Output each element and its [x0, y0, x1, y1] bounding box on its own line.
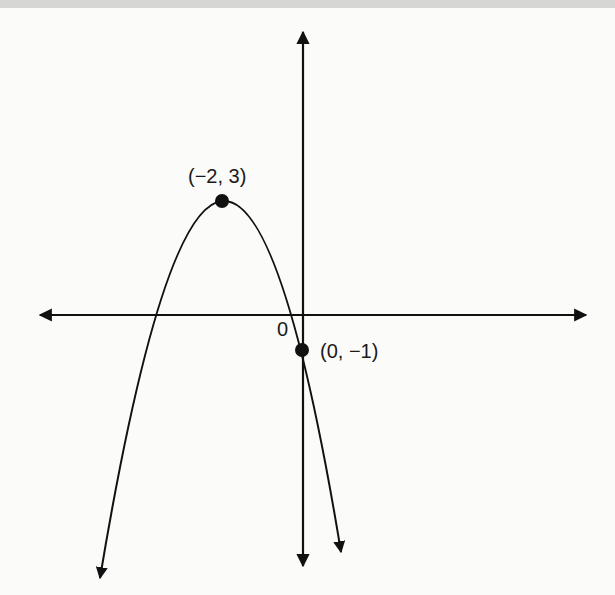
- parabola-graph: [0, 0, 615, 595]
- y-intercept-point: [295, 343, 309, 357]
- origin-label: 0: [277, 318, 288, 341]
- parabola-curve: [100, 201, 341, 578]
- vertex-point: [215, 194, 229, 208]
- vertex-label: (−2, 3): [188, 165, 246, 188]
- y-intercept-label: (0, −1): [320, 340, 378, 363]
